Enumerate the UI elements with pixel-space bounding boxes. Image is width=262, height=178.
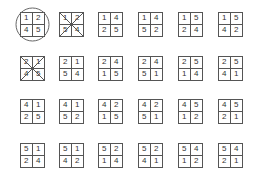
box-cell: 5 xyxy=(191,100,203,112)
box-cell: 4 xyxy=(111,13,123,25)
box-cell: 2 xyxy=(21,156,33,168)
box-cell: 1 xyxy=(72,144,84,156)
permutation-box: 1254 xyxy=(59,12,84,37)
box-cell: 4 xyxy=(179,100,191,112)
box-cell: 5 xyxy=(99,144,111,156)
box-cell: 5 xyxy=(111,69,123,81)
permutation-box: 2415 xyxy=(98,56,123,81)
box-cell: 1 xyxy=(151,156,163,168)
box-cell: 1 xyxy=(33,144,45,156)
box-cell: 1 xyxy=(72,57,84,69)
box-cell: 1 xyxy=(179,13,191,25)
permutation-box: 2154 xyxy=(59,56,84,81)
permutation-box: 1245 xyxy=(20,12,45,37)
box-cell: 1 xyxy=(179,156,191,168)
box-cell: 5 xyxy=(219,144,231,156)
permutation-box: 1524 xyxy=(178,12,203,37)
box-cell: 4 xyxy=(60,100,72,112)
box-cell: 4 xyxy=(219,25,231,37)
box-cell: 2 xyxy=(139,57,151,69)
box-cell: 4 xyxy=(151,57,163,69)
box-cell: 5 xyxy=(231,13,243,25)
box-cell: 2 xyxy=(219,156,231,168)
box-cell: 1 xyxy=(231,112,243,124)
box-cell: 4 xyxy=(231,144,243,156)
box-cell: 1 xyxy=(231,156,243,168)
permutation-box: 4125 xyxy=(20,99,45,124)
box-cell: 2 xyxy=(72,112,84,124)
permutation-box: 2451 xyxy=(138,56,163,81)
box-cell: 2 xyxy=(231,25,243,37)
box-cell: 2 xyxy=(151,100,163,112)
box-cell: 1 xyxy=(219,13,231,25)
box-cell: 2 xyxy=(33,13,45,25)
box-cell: 2 xyxy=(111,144,123,156)
box-cell: 2 xyxy=(191,112,203,124)
box-cell: 5 xyxy=(231,57,243,69)
box-cell: 5 xyxy=(60,112,72,124)
box-cell: 5 xyxy=(33,69,45,81)
box-cell: 5 xyxy=(139,69,151,81)
box-cell: 2 xyxy=(21,57,33,69)
box-cell: 1 xyxy=(99,112,111,124)
box-cell: 1 xyxy=(21,13,33,25)
permutation-box: 1452 xyxy=(138,12,163,37)
box-cell: 4 xyxy=(99,100,111,112)
permutation-box: 4521 xyxy=(218,99,243,124)
box-cell: 5 xyxy=(60,144,72,156)
permutation-box: 5142 xyxy=(59,143,84,168)
permutation-box: 2541 xyxy=(218,56,243,81)
box-cell: 4 xyxy=(151,13,163,25)
permutation-box: 2145 xyxy=(20,56,45,81)
box-cell: 2 xyxy=(72,156,84,168)
box-cell: 2 xyxy=(111,100,123,112)
box-cell: 2 xyxy=(191,156,203,168)
box-cell: 5 xyxy=(231,100,243,112)
box-cell: 4 xyxy=(191,69,203,81)
box-cell: 1 xyxy=(151,112,163,124)
box-cell: 2 xyxy=(179,25,191,37)
box-cell: 4 xyxy=(219,69,231,81)
box-cell: 5 xyxy=(111,25,123,37)
permutation-box: 4251 xyxy=(138,99,163,124)
box-cell: 5 xyxy=(191,13,203,25)
box-cell: 5 xyxy=(191,57,203,69)
box-cell: 4 xyxy=(219,100,231,112)
box-cell: 5 xyxy=(60,25,72,37)
box-cell: 4 xyxy=(72,25,84,37)
permutation-box: 5421 xyxy=(218,143,243,168)
box-cell: 4 xyxy=(191,144,203,156)
box-cell: 1 xyxy=(139,13,151,25)
box-cell: 2 xyxy=(151,25,163,37)
box-cell: 4 xyxy=(139,100,151,112)
box-cell: 5 xyxy=(139,25,151,37)
box-cell: 4 xyxy=(111,156,123,168)
box-cell: 4 xyxy=(60,156,72,168)
box-cell: 2 xyxy=(219,112,231,124)
permutation-box: 5214 xyxy=(98,143,123,168)
box-cell: 4 xyxy=(21,25,33,37)
permutation-box: 4152 xyxy=(59,99,84,124)
box-cell: 1 xyxy=(179,112,191,124)
box-cell: 1 xyxy=(179,69,191,81)
box-cell: 4 xyxy=(111,57,123,69)
box-cell: 2 xyxy=(99,25,111,37)
permutation-box: 5241 xyxy=(138,143,163,168)
permutation-box: 4215 xyxy=(98,99,123,124)
box-cell: 5 xyxy=(111,112,123,124)
box-cell: 5 xyxy=(33,112,45,124)
permutation-box: 5412 xyxy=(178,143,203,168)
box-cell: 2 xyxy=(72,13,84,25)
box-cell: 5 xyxy=(139,144,151,156)
box-cell: 4 xyxy=(21,69,33,81)
box-cell: 1 xyxy=(60,13,72,25)
box-cell: 2 xyxy=(99,57,111,69)
box-cell: 2 xyxy=(219,57,231,69)
box-cell: 2 xyxy=(60,57,72,69)
box-cell: 5 xyxy=(139,112,151,124)
permutation-box: 5124 xyxy=(20,143,45,168)
permutation-box: 1542 xyxy=(218,12,243,37)
box-cell: 4 xyxy=(33,156,45,168)
box-cell: 2 xyxy=(179,57,191,69)
box-cell: 1 xyxy=(33,57,45,69)
